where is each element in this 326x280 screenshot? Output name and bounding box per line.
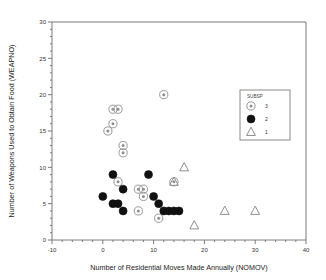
data-point: [190, 221, 199, 229]
marker-open-triangle: [190, 221, 199, 229]
marker-center-dot: [117, 180, 120, 183]
series-1: [170, 163, 260, 229]
marker-open-triangle: [180, 163, 189, 171]
legend-item-label: 1: [265, 129, 268, 135]
data-point: [145, 171, 153, 179]
data-point: [119, 185, 127, 193]
x-tick-label: 0: [101, 247, 105, 253]
y-axis-title: Number of Weapons Used to Obtain Food (W…: [7, 45, 16, 218]
y-tick-label: 0: [43, 237, 47, 243]
data-points-group: [99, 91, 260, 229]
marker-center-dot: [157, 217, 160, 220]
legend-item-label: 3: [265, 103, 268, 109]
marker-filled-circle: [150, 192, 158, 200]
data-point: [175, 207, 183, 215]
scatter-plot-figure: -10010203040051015202530Number of Reside…: [0, 0, 326, 280]
legend[interactable]: SUBSP321: [240, 90, 290, 140]
x-tick-label: -10: [48, 247, 57, 253]
y-tick-label: 10: [39, 165, 46, 171]
marker-center-dot: [137, 209, 140, 212]
x-tick-label: 10: [150, 247, 157, 253]
data-point: [104, 127, 112, 135]
marker-filled-circle: [145, 171, 153, 179]
y-ticks-group: 051015202530: [39, 19, 52, 243]
marker-filled-circle: [155, 200, 163, 208]
x-ticks-group: -10010203040: [48, 240, 310, 253]
legend-item-label: 2: [265, 116, 268, 122]
marker-filled-circle: [99, 192, 107, 200]
marker-center-dot: [142, 188, 145, 191]
legend-marker-2: [247, 115, 255, 123]
marker-center-dot: [250, 105, 253, 108]
marker-filled-circle: [119, 207, 127, 215]
data-point: [134, 207, 142, 215]
marker-filled-circle: [119, 185, 127, 193]
plot-canvas: -10010203040051015202530Number of Reside…: [0, 0, 326, 280]
y-tick-label: 25: [39, 56, 46, 62]
x-tick-label: 40: [303, 247, 310, 253]
marker-center-dot: [162, 93, 165, 96]
x-axis-title: Number of Residential Moves Made Annuall…: [90, 263, 267, 272]
data-point: [114, 178, 122, 186]
marker-center-dot: [122, 144, 125, 147]
data-point: [251, 206, 260, 214]
x-tick-label: 20: [201, 247, 208, 253]
marker-open-triangle: [220, 206, 229, 214]
data-point: [155, 200, 163, 208]
y-tick-label: 5: [43, 201, 47, 207]
data-point: [155, 214, 163, 222]
data-point: [109, 120, 117, 128]
data-point: [119, 207, 127, 215]
marker-filled-circle: [247, 115, 255, 123]
marker-center-dot: [172, 180, 175, 183]
legend-title: SUBSP: [247, 94, 263, 99]
marker-center-dot: [111, 122, 114, 125]
marker-center-dot: [117, 108, 120, 111]
marker-filled-circle: [114, 200, 122, 208]
data-point: [180, 163, 189, 171]
marker-filled-circle: [109, 171, 117, 179]
marker-center-dot: [122, 151, 125, 154]
data-point: [160, 91, 168, 99]
data-point: [99, 192, 107, 200]
y-tick-label: 15: [39, 128, 46, 134]
data-point: [114, 105, 122, 113]
data-point: [150, 192, 158, 200]
data-point: [220, 206, 229, 214]
y-tick-label: 20: [39, 92, 46, 98]
y-tick-label: 30: [39, 19, 46, 25]
marker-center-dot: [142, 195, 145, 198]
data-point: [114, 200, 122, 208]
marker-filled-circle: [175, 207, 183, 215]
x-tick-label: 30: [252, 247, 259, 253]
marker-open-triangle: [251, 206, 260, 214]
marker-center-dot: [106, 130, 109, 133]
data-point: [109, 171, 117, 179]
